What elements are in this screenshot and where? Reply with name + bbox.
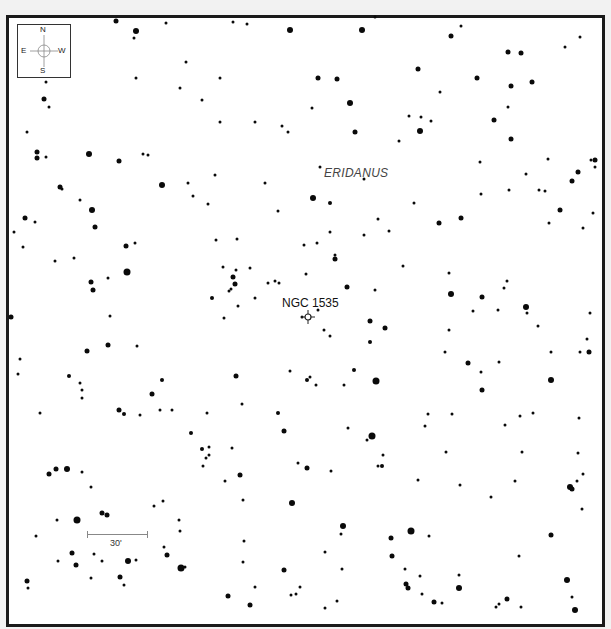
- star: [507, 106, 510, 109]
- star: [514, 480, 517, 483]
- star: [243, 540, 246, 543]
- star: [178, 565, 185, 572]
- star: [267, 282, 270, 285]
- star: [576, 170, 581, 175]
- star: [579, 351, 582, 354]
- star: [456, 585, 462, 591]
- star: [222, 266, 225, 269]
- star: [530, 80, 535, 85]
- star: [448, 329, 451, 332]
- star: [54, 260, 57, 263]
- star: [91, 288, 96, 293]
- star: [309, 376, 312, 379]
- star: [35, 150, 40, 155]
- star: [234, 374, 239, 379]
- star: [504, 424, 507, 427]
- star: [61, 188, 64, 191]
- star: [107, 277, 110, 280]
- star: [297, 462, 300, 465]
- target-label: NGC 1535: [282, 296, 339, 310]
- star: [201, 99, 204, 102]
- star: [264, 182, 267, 185]
- star: [377, 218, 380, 221]
- star: [329, 335, 332, 338]
- star: [369, 433, 376, 440]
- star: [323, 329, 326, 332]
- star: [200, 447, 204, 451]
- star: [508, 189, 511, 192]
- star: [480, 193, 483, 196]
- star: [117, 408, 122, 413]
- star: [572, 607, 578, 613]
- star: [165, 553, 170, 558]
- star: [475, 76, 480, 81]
- star: [324, 607, 327, 610]
- star: [432, 600, 437, 605]
- star: [324, 551, 327, 554]
- star: [105, 513, 110, 518]
- star: [242, 499, 245, 502]
- star: [506, 280, 509, 283]
- star: [420, 116, 423, 119]
- star: [179, 530, 182, 533]
- star: [544, 190, 547, 193]
- star: [345, 285, 350, 290]
- star: [117, 159, 122, 164]
- star: [57, 560, 60, 563]
- star: [254, 297, 257, 300]
- star: [589, 312, 592, 315]
- star: [417, 479, 420, 482]
- compass-north: N: [40, 26, 46, 34]
- star: [85, 349, 90, 354]
- star: [336, 600, 339, 603]
- star: [26, 131, 29, 134]
- star: [577, 452, 580, 455]
- star: [373, 378, 380, 385]
- star: [549, 533, 554, 538]
- star: [224, 480, 227, 483]
- star: [316, 76, 321, 81]
- star: [67, 374, 71, 378]
- finder-chart: N S E W ERIDANUS NGC 1535 30': [0, 0, 611, 629]
- star: [162, 500, 165, 503]
- star: [232, 21, 235, 24]
- star: [366, 439, 369, 442]
- star: [444, 351, 447, 354]
- star: [74, 517, 81, 524]
- star: [214, 174, 217, 177]
- star: [134, 242, 137, 245]
- star: [382, 454, 385, 457]
- star: [54, 467, 59, 472]
- star: [380, 464, 384, 468]
- star: [576, 480, 579, 483]
- star: [27, 587, 30, 590]
- star: [179, 87, 182, 90]
- star: [208, 446, 211, 449]
- star: [537, 325, 540, 328]
- star: [564, 577, 570, 583]
- star: [287, 131, 290, 134]
- star: [124, 269, 131, 276]
- star: [448, 272, 451, 275]
- star: [374, 16, 377, 19]
- star: [254, 586, 257, 589]
- star: [210, 296, 214, 300]
- star: [570, 179, 575, 184]
- star: [22, 246, 25, 249]
- star: [305, 273, 308, 276]
- star: [505, 597, 510, 602]
- star: [23, 216, 28, 221]
- star: [458, 574, 461, 577]
- star: [419, 575, 422, 578]
- star: [25, 579, 30, 584]
- star: [587, 350, 592, 355]
- star: [548, 222, 551, 225]
- star: [114, 19, 119, 24]
- star: [538, 189, 541, 192]
- star: [398, 140, 401, 143]
- star: [295, 593, 298, 596]
- star: [287, 27, 293, 33]
- star: [564, 46, 567, 49]
- star: [352, 368, 356, 372]
- star: [249, 267, 252, 270]
